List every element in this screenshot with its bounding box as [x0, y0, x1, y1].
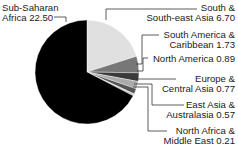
label-line: South-east Asia 6.70 — [146, 13, 235, 23]
label-line: Africa 22.50 — [2, 13, 59, 23]
label-line: Caribbean 1.73 — [164, 40, 235, 50]
label-line: Australasia 0.57 — [166, 110, 235, 120]
label-north-america: North America 0.89 — [153, 54, 235, 64]
label-east-asia-australasia: East Asia & Australasia 0.57 — [166, 100, 235, 120]
label-south-america-caribbean: South America & Caribbean 1.73 — [164, 30, 235, 50]
label-north-africa-middle-east: North Africa & Middle East 0.21 — [164, 126, 235, 146]
label-line: Central Asia 0.77 — [162, 84, 235, 94]
label-south-southeast-asia: South & South-east Asia 6.70 — [146, 3, 235, 23]
label-sub-saharan-africa: Sub-Saharan Africa 22.50 — [2, 3, 59, 23]
label-line: Middle East 0.21 — [164, 136, 235, 146]
label-europe-central-asia: Europe & Central Asia 0.77 — [162, 74, 235, 94]
label-line: North America 0.89 — [153, 54, 235, 64]
pie-slices — [35, 20, 139, 124]
